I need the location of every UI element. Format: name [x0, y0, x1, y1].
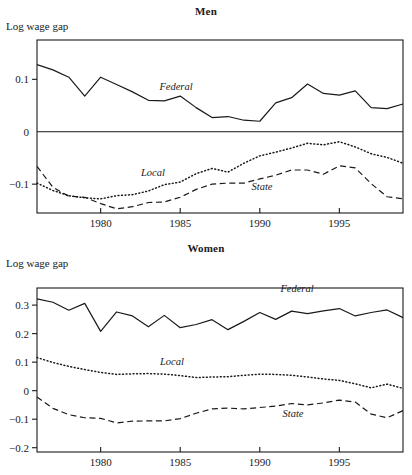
series-label-federal: Federal [158, 81, 192, 92]
y-tick-label: −0.1 [9, 178, 29, 190]
series-line-local [37, 358, 403, 389]
y-tick-label: −0.2 [9, 442, 29, 454]
y-tick-label: 0 [24, 126, 30, 138]
x-tick-label: 1990 [249, 217, 272, 229]
panel-men: Men Log wage gap 0.10−0.1198019851990199… [0, 0, 412, 237]
series-line-state [37, 397, 403, 423]
series-label-local: Local [159, 356, 184, 367]
series-label-local: Local [140, 167, 165, 178]
y-tick-label: 0.3 [15, 299, 29, 311]
x-tick-label: 1995 [328, 217, 351, 229]
x-tick-label: 1985 [169, 456, 192, 468]
plot-area-men: 0.10−0.11980198519901995FederalLocalStat… [0, 0, 412, 238]
x-tick-label: 1980 [90, 217, 113, 229]
series-label-federal: Federal [279, 283, 313, 294]
y-tick-label: 0 [24, 385, 30, 397]
x-tick-label: 1995 [328, 456, 351, 468]
x-tick-label: 1980 [90, 456, 113, 468]
wage-gap-figure: Men Log wage gap 0.10−0.1198019851990199… [0, 0, 412, 475]
y-tick-label: 0.2 [15, 328, 29, 340]
x-tick-label: 1985 [169, 217, 192, 229]
series-label-state: State [283, 408, 304, 419]
y-tick-label: 0.1 [15, 356, 29, 368]
y-tick-label: −0.1 [9, 413, 29, 425]
series-line-federal [37, 65, 403, 122]
plot-frame [37, 40, 403, 213]
series-line-state [37, 166, 403, 209]
series-label-state: State [252, 181, 273, 192]
panel-women: Women Log wage gap 0.30.20.10−0.1−0.2198… [0, 237, 412, 475]
series-line-federal [37, 299, 403, 332]
x-tick-label: 1990 [249, 456, 272, 468]
series-line-local [37, 142, 403, 199]
y-tick-label: 0.1 [15, 73, 29, 85]
plot-area-women: 0.30.20.10−0.1−0.21980198519901995Federa… [0, 237, 412, 475]
